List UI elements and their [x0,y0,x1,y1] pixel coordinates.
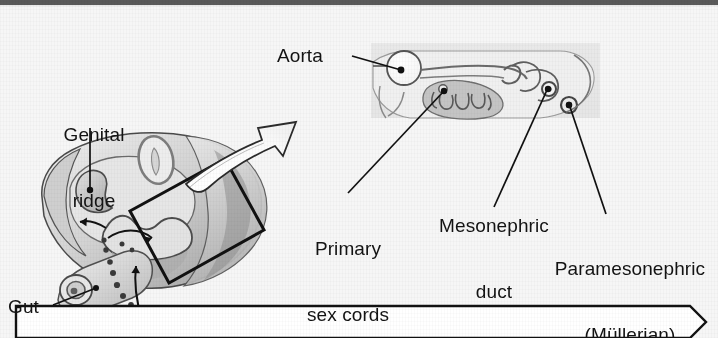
label-genital-ridge: Genital ridge [54,80,134,256]
label-aorta: Aorta [277,45,323,67]
leader-paramesonephric-duct [570,107,606,214]
mesonephros-detail-drawing [371,43,600,119]
label-mesonephric-duct: Mesonephric duct [424,171,564,338]
label-primary-sex-cords: Primary sex cords [292,194,404,338]
label-genital-ridge-line2: ridge [54,190,134,212]
gut-lumen-core [71,288,78,294]
label-mesonephric-duct-line1: Mesonephric [424,215,564,237]
dot-gut [93,285,99,291]
label-gut: Gut [8,296,39,318]
label-paramesonephric-duct-line1: Paramesonephric [546,258,714,280]
dot-aorta [398,67,405,74]
label-mesonephric-duct-line2: duct [424,281,564,303]
dot-paramesonephric-duct [566,102,572,108]
label-paramesonephric-duct-line2: (Müllerian) [546,324,714,338]
label-primary-sex-cords-line1: Primary [292,238,404,260]
label-primary-sex-cords-line2: sex cords [292,304,404,326]
label-genital-ridge-line1: Genital [54,124,134,146]
label-paramesonephric-duct: Paramesonephric (Müllerian) duct [546,214,714,338]
dot-mesonephric-duct [545,86,551,92]
dot-primary-sex-cords [441,88,447,94]
anatomy-figure: Genital ridge Gut Aorta Primary sex cord… [0,0,718,338]
